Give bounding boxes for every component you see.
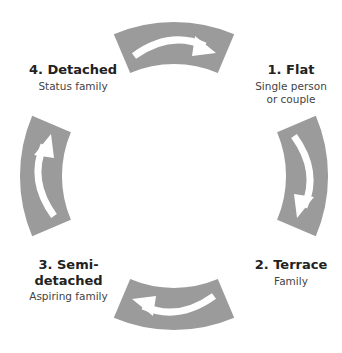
stage-title: 1. Flat — [246, 62, 336, 78]
segment-left — [20, 116, 71, 236]
stage-subtitle: Status family — [28, 80, 118, 93]
stage-subtitle: Family — [246, 275, 336, 288]
stage-detached: 4. Detached Status family — [28, 62, 118, 92]
stage-terrace: 2. Terrace Family — [246, 257, 336, 287]
stage-semi-detached: 3. Semi-detached Aspiring family — [6, 257, 131, 303]
stage-subtitle: Aspiring family — [6, 290, 131, 303]
stage-flat: 1. Flat Single person or couple — [246, 62, 336, 106]
segment-right — [277, 116, 328, 236]
stage-title: 2. Terrace — [246, 257, 336, 273]
stage-subtitle: Single person — [246, 80, 336, 93]
segment-top — [114, 22, 234, 73]
stage-title: 3. Semi-detached — [6, 257, 131, 288]
stage-title: 4. Detached — [28, 62, 118, 78]
segment-bottom — [114, 279, 234, 330]
stage-subtitle: or couple — [246, 93, 336, 106]
